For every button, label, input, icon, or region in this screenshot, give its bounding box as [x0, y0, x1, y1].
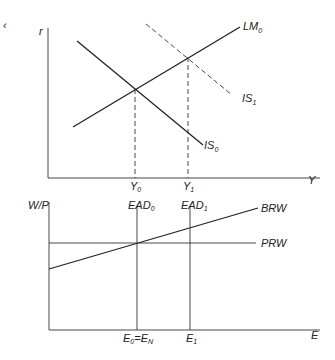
is1-label: IS1 — [242, 92, 256, 106]
e-axis-label: E — [311, 329, 319, 341]
lm0-curve — [73, 27, 240, 127]
e0-en-tick-label: E0=EN — [123, 332, 154, 345]
y0-tick-label: Y0 — [130, 180, 141, 193]
brw-curve — [49, 208, 258, 269]
e1-tick-label: E1 — [186, 332, 197, 345]
wp-axis-label: W/P — [28, 199, 49, 211]
is0-label: IS0 — [204, 139, 218, 153]
brw-label: BRW — [261, 202, 288, 214]
r-axis-label: r — [39, 25, 44, 37]
lm0-label: LM0 — [243, 20, 262, 34]
bottom-panel: W/P E BRW PRW EAD0 EAD1 E0=EN E1 — [28, 199, 320, 345]
prw-label: PRW — [261, 237, 288, 249]
ead0-label: EAD0 — [128, 199, 155, 212]
ead1-label: EAD1 — [181, 199, 208, 212]
y1-tick-label: Y1 — [183, 180, 194, 193]
is-lm-labour-market-diagram: ‹ r Y LM0 IS0 IS1 Y0 Y1 W/P E BRW PRW EA… — [0, 0, 335, 360]
corner-mark: ‹ — [3, 19, 7, 31]
y-axis-label: Y — [308, 174, 316, 186]
top-panel: ‹ r Y LM0 IS0 IS1 Y0 Y1 — [3, 19, 320, 193]
is0-curve — [77, 41, 203, 145]
is1-curve — [146, 24, 232, 95]
